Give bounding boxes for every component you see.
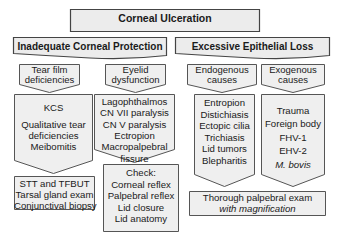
list-item: Trichiasis	[194, 132, 255, 144]
sub-label-line: deficiencies	[19, 75, 80, 85]
diagnostic-item: with magnification	[189, 204, 326, 215]
list-item: Ectopic cilia	[194, 120, 255, 132]
sub-label-exogenous: Exogenous causes	[261, 65, 325, 85]
branch-label-epithelial: Excessive Epithelial Loss	[175, 41, 330, 52]
diagnostic-item: Conjunctival biopsy	[14, 201, 95, 212]
list-item: Trauma	[261, 104, 325, 117]
sub-label-endogenous: Endogenous causes	[187, 65, 257, 85]
items-eyelid: Lagophthalmos CN VII paralysis CN V para…	[94, 96, 175, 164]
root-title: Corneal Ulceration	[70, 13, 260, 25]
sub-label-line: causes	[261, 75, 325, 85]
list-item: Distichiasis	[194, 109, 255, 121]
list-item: fissure	[94, 153, 175, 164]
diagnostic-item: Check:	[103, 167, 179, 179]
list-item: EHV-2	[261, 144, 325, 157]
diagnostic-item: Lid closure	[103, 202, 179, 214]
branch-label-protection: Inadequate Corneal Protection	[13, 41, 167, 52]
list-item: Meibomitis	[14, 142, 93, 153]
diagnostic-item: Palpebral reflex	[103, 190, 179, 202]
diagnostics-eyelid: Check: Corneal reflex Palpebral reflex L…	[103, 167, 179, 225]
diagnostics-epithelial: Thorough palpebral exam with magnificati…	[189, 193, 326, 215]
list-item: Ectropion	[94, 130, 175, 141]
list-item: FHV-1	[261, 131, 325, 144]
sub-label-tear-film: Tear film deficiencies	[19, 65, 80, 85]
diagnostic-item: Corneal reflex	[103, 179, 179, 191]
sub-label-eyelid: Eyelid dysfunction	[105, 65, 166, 85]
sub-label-line: causes	[187, 75, 257, 85]
list-item: Macropalpebral	[94, 141, 175, 152]
list-item: CN VII paralysis	[94, 107, 175, 118]
items-exogenous: Trauma Foreign body FHV-1 EHV-2 M. bovis	[261, 104, 325, 171]
list-item: M. bovis	[261, 158, 325, 171]
list-item: Lagophthalmos	[94, 96, 175, 107]
list-item: Entropion	[194, 97, 255, 109]
diagnostics-tear-film: STT and TFBUT Tarsal gland exam Conjunct…	[14, 179, 95, 212]
list-item: Blepharitis	[194, 155, 255, 167]
list-item: Lid tumors	[194, 143, 255, 155]
list-item: KCS	[14, 103, 93, 114]
diagram-canvas: Corneal Ulceration Inadequate Corneal Pr…	[0, 0, 342, 238]
items-endogenous: Entropion Distichiasis Ectopic cilia Tri…	[194, 97, 255, 166]
items-tear-film: KCS Qualitative tear deficiencies Meibom…	[14, 103, 93, 153]
diagnostic-item: Lid anatomy	[103, 213, 179, 225]
sub-label-line: dysfunction	[105, 75, 166, 85]
list-item: CN V paralysis	[94, 119, 175, 130]
list-item: Foreign body	[261, 117, 325, 130]
